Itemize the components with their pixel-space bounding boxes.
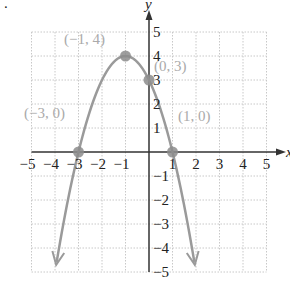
x-tick-label: 3 [216,156,224,172]
x-axis-arrow-icon [276,149,286,156]
x-tick-label: 2 [192,156,200,172]
y-axis-label: y [143,0,152,12]
corner-mark: . [4,0,8,11]
y-tick-label: −4 [153,240,169,256]
point-label: (0, 3) [154,58,187,75]
y-tick-label: −3 [153,216,169,232]
x-tick-label: −3 [67,156,83,172]
point-label: (−3, 0) [24,105,65,122]
parabola-plot: xy −5−4−3−2−11234554321−1−2−3−4−5 (−1, 4… [0,0,290,282]
x-axis-label: x [285,144,290,160]
point-labels: (−1, 4)(0, 3)(−3, 0)(1, 0) [24,31,211,125]
x-tick-label: 5 [263,156,271,172]
x-tick-label: −5 [20,156,36,172]
y-tick-label: −2 [153,192,169,208]
point-label: (1, 0) [178,108,211,125]
y-tick-label: −5 [153,264,169,280]
key-point [120,51,131,62]
y-tick-label: 5 [153,24,161,40]
x-tick-label: −1 [114,156,130,172]
point-label: (−1, 4) [64,31,105,48]
x-tick-label: 4 [239,156,247,172]
x-tick-label: −2 [90,156,106,172]
y-tick-label: 3 [153,72,161,88]
y-tick-label: 1 [153,120,161,136]
y-tick-label: −1 [153,168,169,184]
x-tick-label: −4 [43,156,59,172]
y-tick-label: 2 [153,96,161,112]
x-tick-label: 1 [169,156,177,172]
